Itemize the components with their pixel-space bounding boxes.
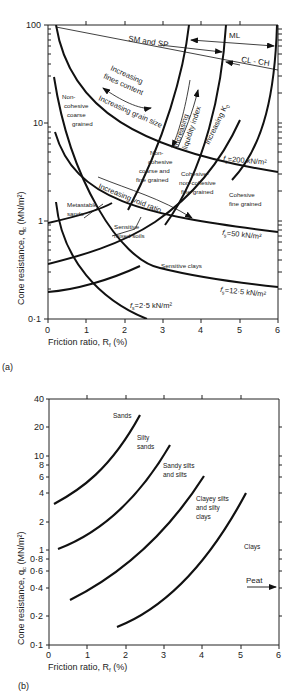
svg-text:cohesive: cohesive <box>148 158 173 165</box>
panel-b-ytick-2: 2 <box>39 517 44 527</box>
boundary-sensitive-lower <box>48 266 140 292</box>
label-metastable-sands: Metastable sands <box>67 201 98 217</box>
arrow-sm-sp <box>160 45 222 52</box>
boundary-sands-silty-sands <box>54 415 140 504</box>
svg-text:Silty: Silty <box>137 434 150 442</box>
panel-a-xtick-3: 3 <box>160 325 165 335</box>
arrow-ml <box>191 40 274 46</box>
panel-a-ytick-10: 10 <box>33 118 43 128</box>
svg-text:non-cohesive: non-cohesive <box>179 179 216 186</box>
label-increasing-liquidity: Increasing liquidity index <box>171 105 203 151</box>
svg-text:sands: sands <box>67 210 84 217</box>
panel-b-xtick-5: 5 <box>238 650 243 660</box>
panel-a-xtick-4: 4 <box>198 325 203 335</box>
svg-text:fine grained: fine grained <box>181 188 214 195</box>
panel-b-ytick-0.2: 0·2 <box>30 611 43 621</box>
svg-text:Sandy silts: Sandy silts <box>163 462 195 470</box>
svg-text:fine grained: fine grained <box>229 200 262 207</box>
label-sensitive-clays: Sensitive clays <box>161 262 202 269</box>
svg-text:Cohesive-: Cohesive- <box>181 170 209 177</box>
panel-b-xtick-0: 0 <box>46 650 51 660</box>
panel-b: 40 20 10 8 6 4 2 1 0·8 0·6 0·4 0·2 0·1 0… <box>16 394 282 691</box>
panel-a-xtick-1: 1 <box>84 325 89 335</box>
panel-b-axes <box>49 399 279 645</box>
panel-a-xtick-2: 2 <box>122 325 127 335</box>
panel-b-xtick-4: 4 <box>199 650 204 660</box>
panel-a: 100 10 1 0·1 0 1 2 3 4 5 6 Friction rati… <box>2 20 282 372</box>
svg-text:Sensitive: Sensitive <box>114 223 140 230</box>
label-sm-sp: SM and SP <box>128 34 169 49</box>
panel-b-ytick-20: 20 <box>34 422 44 432</box>
label-silty-sands: Silty sands <box>137 434 155 450</box>
panel-b-ytick-8: 8 <box>39 460 44 470</box>
panel-a-x-axis-title: Friction ratio, Rf (%) <box>48 337 127 348</box>
panel-b-ytick-0.4: 0·4 <box>30 583 43 593</box>
svg-text:cohesive: cohesive <box>64 102 89 109</box>
label-clays: Clays <box>244 543 261 551</box>
label-fs-2.5: fs=2·5 kN/m² <box>130 301 172 311</box>
svg-text:and silts: and silts <box>163 471 188 478</box>
svg-text:Clayey silts: Clayey silts <box>196 495 230 503</box>
panel-b-ytick-6: 6 <box>39 472 44 482</box>
svg-text:Non-: Non- <box>62 93 75 100</box>
svg-text:mixed soils: mixed soils <box>114 232 145 239</box>
label-peat: Peat <box>246 576 263 585</box>
label-increasing-k0: Increasing K0 <box>203 102 232 147</box>
boundary-silty-sands-sandy-silts <box>58 445 170 549</box>
curve-fs-2.5 <box>56 202 147 319</box>
svg-text:fine grained: fine grained <box>136 176 169 183</box>
panel-a-xtick-6: 6 <box>275 325 280 335</box>
svg-text:coarse and: coarse and <box>139 167 170 174</box>
svg-text:clays: clays <box>196 513 212 521</box>
panel-b-ytick-0.8: 0·8 <box>30 554 43 564</box>
panel-a-label: (a) <box>2 362 13 372</box>
svg-text:Metastable: Metastable <box>67 201 98 208</box>
label-cohesive-fine: Cohesive fine grained <box>229 191 262 207</box>
panel-b-ytick-40: 40 <box>34 394 44 404</box>
label-ml: ML <box>229 31 241 40</box>
label-sands: Sands <box>113 412 132 419</box>
panel-b-xtick-1: 1 <box>85 650 90 660</box>
panel-a-xtick-5: 5 <box>237 325 242 335</box>
panel-b-ytick-0.6: 0·6 <box>30 566 43 576</box>
panel-a-ytick-1: 1 <box>38 216 43 226</box>
panel-a-y-axis-title: Cone resistance, qc (MN/m²) <box>16 191 27 305</box>
panel-b-xtick-2: 2 <box>123 650 128 660</box>
panel-b-y-axis-title: Cone resistance, qc (MN/m²) <box>16 531 27 645</box>
label-noncohesive-coarse: Non- cohesive coarse grained <box>62 93 93 127</box>
svg-text:grained: grained <box>72 120 93 127</box>
svg-text:Cohesive: Cohesive <box>229 191 255 198</box>
svg-text:and silty: and silty <box>196 504 221 512</box>
label-cl-ch: CL - CH <box>241 55 271 68</box>
boundary-clayey-silts-clays <box>117 493 246 627</box>
label-clayey-silts: Clayey silts and silty clays <box>196 495 230 521</box>
panel-b-x-ticks <box>49 395 279 649</box>
svg-text:sands: sands <box>137 443 155 450</box>
label-increasing-fines: Increasing fines content <box>102 64 145 98</box>
panel-a-ytick-100: 100 <box>26 20 41 30</box>
panel-a-ytick-0.1: 0·1 <box>28 314 41 324</box>
label-sandy-silts: Sandy silts and silts <box>163 462 195 478</box>
panel-a-xtick-0: 0 <box>45 325 50 335</box>
label-cohesive-noncohesive-fine: Cohesive- non-cohesive fine grained <box>179 170 216 195</box>
svg-text:Non-: Non- <box>150 149 163 156</box>
panel-b-xtick-6: 6 <box>276 650 281 660</box>
panel-b-ytick-4: 4 <box>39 488 44 498</box>
label-fs-12.5: fs=12·5 kN/m² <box>220 285 267 300</box>
panel-b-label: (b) <box>18 681 29 691</box>
soil-classification-figure: 100 10 1 0·1 0 1 2 3 4 5 6 Friction rati… <box>0 0 300 695</box>
panel-b-y-ticks <box>46 399 282 645</box>
panel-b-x-axis-title: Friction ratio, Rf (%) <box>48 662 127 673</box>
panel-b-ytick-0.1: 0·1 <box>30 640 43 650</box>
svg-text:coarse: coarse <box>67 111 86 118</box>
panel-b-xtick-3: 3 <box>161 650 166 660</box>
label-noncohesive-coarse-fine: Non- cohesive coarse and fine grained <box>136 149 173 183</box>
